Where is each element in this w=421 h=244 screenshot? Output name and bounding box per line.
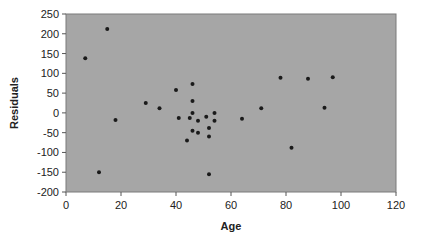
data-point: [279, 76, 283, 80]
data-point: [213, 111, 217, 115]
data-point: [290, 146, 294, 150]
data-point: [191, 99, 195, 103]
y-tick-label: 100: [41, 67, 59, 79]
data-point: [185, 139, 189, 143]
x-axis: 020406080100120: [63, 192, 405, 211]
data-point: [259, 106, 263, 110]
y-axis-title: Residuals: [8, 77, 20, 129]
data-point: [196, 119, 200, 123]
y-tick-label: -100: [37, 146, 59, 158]
data-point: [83, 56, 87, 60]
data-point: [240, 117, 244, 121]
data-point: [191, 129, 195, 133]
data-point: [207, 126, 211, 130]
data-point: [213, 119, 217, 123]
data-point: [177, 116, 181, 120]
data-point: [207, 135, 211, 139]
y-tick-label: 150: [41, 48, 59, 60]
data-point: [331, 75, 335, 79]
data-point: [204, 115, 208, 119]
x-tick-label: 80: [280, 199, 292, 211]
x-tick-label: 0: [63, 199, 69, 211]
y-tick-label: 50: [47, 87, 59, 99]
data-point: [158, 106, 162, 110]
scatter-chart: 250200150100500-50-100-150-200 020406080…: [0, 0, 421, 244]
data-point: [97, 170, 101, 174]
data-point: [114, 118, 118, 122]
x-tick-label: 40: [170, 199, 182, 211]
y-tick-label: 200: [41, 28, 59, 40]
x-tick-label: 60: [225, 199, 237, 211]
x-tick-label: 100: [332, 199, 350, 211]
data-point: [306, 77, 310, 81]
y-tick-label: -150: [37, 166, 59, 178]
y-tick-label: -200: [37, 186, 59, 198]
x-axis-title: Age: [221, 220, 242, 232]
data-point: [105, 27, 109, 31]
data-point: [188, 116, 192, 120]
data-point: [174, 88, 178, 92]
data-point: [144, 101, 148, 105]
x-tick-label: 120: [387, 199, 405, 211]
x-tick-label: 20: [115, 199, 127, 211]
plot-area: [66, 14, 396, 192]
y-tick-label: -50: [43, 127, 59, 139]
y-axis: 250200150100500-50-100-150-200: [37, 8, 66, 198]
y-tick-label: 0: [53, 107, 59, 119]
data-point: [323, 106, 327, 110]
data-point: [196, 131, 200, 135]
data-point: [207, 172, 211, 176]
data-point: [191, 111, 195, 115]
y-tick-label: 250: [41, 8, 59, 20]
data-point: [191, 82, 195, 86]
